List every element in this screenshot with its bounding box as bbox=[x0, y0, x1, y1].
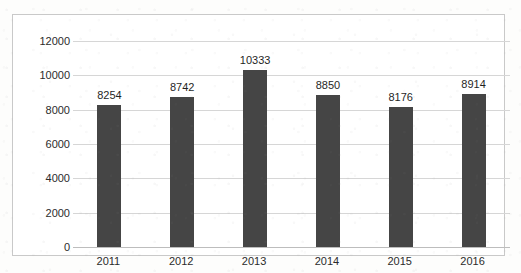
x-tick-label: 2011 bbox=[78, 256, 138, 267]
bar[interactable] bbox=[316, 95, 340, 247]
bar-value-label: 10333 bbox=[225, 55, 285, 66]
bar-value-label: 8742 bbox=[152, 82, 212, 93]
bar[interactable] bbox=[243, 70, 267, 247]
y-tick-label: 0 bbox=[0, 242, 70, 253]
gridline bbox=[73, 41, 510, 42]
x-tick-label: 2014 bbox=[297, 256, 357, 267]
gridline bbox=[73, 144, 510, 145]
plot-area: 8254874210333885081768914 bbox=[73, 41, 510, 247]
y-axis-tick-labels: 020004000600080001000012000 bbox=[0, 41, 70, 247]
gridline bbox=[73, 75, 510, 76]
y-tick-label: 6000 bbox=[0, 139, 70, 150]
y-tick-label: 10000 bbox=[0, 70, 70, 81]
bar-value-label: 8914 bbox=[444, 79, 504, 90]
chart-frame: 020004000600080001000012000 825487421033… bbox=[12, 14, 505, 256]
bar-value-label: 8254 bbox=[79, 90, 139, 101]
bar-value-label: 8176 bbox=[371, 92, 431, 103]
gridline bbox=[73, 247, 510, 248]
gridline bbox=[73, 213, 510, 214]
bar[interactable] bbox=[97, 105, 121, 247]
y-tick-label: 12000 bbox=[0, 36, 70, 47]
bar[interactable] bbox=[462, 94, 486, 247]
y-tick-label: 4000 bbox=[0, 173, 70, 184]
gridline bbox=[73, 178, 510, 179]
y-tick-label: 8000 bbox=[0, 105, 70, 116]
x-tick-label: 2015 bbox=[370, 256, 430, 267]
bar[interactable] bbox=[389, 107, 413, 247]
y-tick-label: 2000 bbox=[0, 208, 70, 219]
bar[interactable] bbox=[170, 97, 194, 247]
x-tick-label: 2012 bbox=[151, 256, 211, 267]
x-tick-label: 2016 bbox=[443, 256, 503, 267]
bar-value-label: 8850 bbox=[298, 80, 358, 91]
gridline bbox=[73, 110, 510, 111]
x-tick-label: 2013 bbox=[224, 256, 284, 267]
